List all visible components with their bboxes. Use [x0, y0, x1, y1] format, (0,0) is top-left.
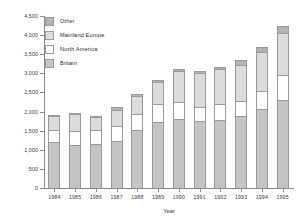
- bar-segment-britain: [214, 120, 226, 188]
- x-axis-tick: [262, 188, 263, 192]
- x-axis-tick: [137, 188, 138, 192]
- bar-segment-other: [277, 26, 289, 34]
- bar-segment-mainland: [90, 117, 102, 130]
- bar-segment-britain: [69, 145, 81, 188]
- bar-segment-north-america: [111, 126, 123, 141]
- bar-segment-mainland: [48, 116, 60, 130]
- legend-item-britain[interactable]: Britain: [45, 56, 105, 70]
- legend-label: Britain: [60, 60, 77, 66]
- bar-segment-north-america: [69, 131, 81, 145]
- bar-segment-mainland: [111, 110, 123, 126]
- bar-segment-britain: [90, 144, 102, 188]
- bar-segment-britain: [256, 109, 268, 188]
- legend-item-north-america[interactable]: North America: [45, 42, 105, 56]
- bar-stack-1988: [131, 94, 143, 188]
- bar-segment-mainland: [194, 73, 206, 107]
- bar-segment-north-america: [194, 107, 206, 121]
- bar-segment-britain: [111, 141, 123, 188]
- x-axis-tick: [75, 188, 76, 192]
- x-axis-tick: [96, 188, 97, 192]
- bar-segment-britain: [194, 121, 206, 188]
- bar-stack-1986: [90, 116, 102, 188]
- legend-swatch-mainland: [45, 31, 54, 40]
- x-axis-tick-label: 1995: [277, 194, 289, 200]
- y-axis-tick: [40, 16, 44, 17]
- legend-swatch-north-america: [45, 45, 54, 54]
- x-axis-tick-label: 1985: [69, 194, 81, 200]
- y-axis-tick: [40, 131, 44, 132]
- bar-segment-britain: [152, 122, 164, 188]
- bar-stack-1984: [48, 115, 60, 188]
- y-axis-tick-label: 1,000: [24, 147, 38, 153]
- bar-segment-north-america: [152, 104, 164, 122]
- x-axis-tick-label: 1988: [131, 194, 143, 200]
- bar-stack-1985: [69, 113, 81, 188]
- y-axis-tick-label: 1,500: [24, 128, 38, 134]
- bar-stack-1992: [214, 67, 226, 189]
- bar-segment-north-america: [277, 75, 289, 99]
- bar-segment-britain: [277, 100, 289, 188]
- x-axis-tick-label: 1990: [173, 194, 185, 200]
- x-axis-tick: [179, 188, 180, 192]
- y-axis-tick-label: 2,000: [24, 109, 38, 115]
- bar-segment-mainland: [277, 33, 289, 75]
- x-axis-tick-label: 1989: [152, 194, 164, 200]
- x-axis-tick: [117, 188, 118, 192]
- bar-segment-north-america: [173, 102, 185, 119]
- x-axis-tick-label: 1994: [256, 194, 268, 200]
- bar-segment-britain: [48, 142, 60, 188]
- y-axis-tick-label: 2,500: [24, 89, 38, 95]
- y-axis-tick: [40, 54, 44, 55]
- x-axis-tick: [241, 188, 242, 192]
- y-axis-tick: [40, 92, 44, 93]
- bar-stack-1995: [277, 26, 289, 188]
- bar-stack-1990: [173, 69, 185, 188]
- bar-segment-mainland: [152, 82, 164, 104]
- x-axis-tick-label: 1991: [194, 194, 206, 200]
- y-axis-tick: [40, 150, 44, 151]
- y-axis-tick: [40, 112, 44, 113]
- x-axis-title: Year: [44, 208, 294, 214]
- x-axis-tick-label: 1993: [235, 194, 247, 200]
- bar-segment-north-america: [90, 130, 102, 144]
- bar-segment-mainland: [256, 52, 268, 91]
- legend-item-mainland[interactable]: Mainland Europe: [45, 28, 105, 42]
- bar-stack-1987: [111, 107, 123, 188]
- bar-segment-britain: [235, 116, 247, 188]
- x-axis-tick-label: 1984: [48, 194, 60, 200]
- x-axis-tick-label: 1986: [90, 194, 102, 200]
- x-axis-tick: [283, 188, 284, 192]
- y-axis-tick-label: 0: [35, 185, 38, 191]
- bar-segment-north-america: [131, 114, 143, 130]
- y-axis-tick-label: 4,000: [24, 32, 38, 38]
- legend-label: North America: [60, 46, 97, 52]
- y-axis-tick: [40, 188, 44, 189]
- bar-segment-north-america: [214, 104, 226, 120]
- stacked-bar-chart: 05001,0001,5002,0002,5003,0003,5004,0004…: [0, 0, 305, 222]
- bar-segment-britain: [131, 130, 143, 188]
- y-axis-tick-label: 4,500: [24, 13, 38, 19]
- y-axis-tick: [40, 169, 44, 170]
- bar-stack-1989: [152, 80, 164, 188]
- chart-legend: OtherMainland EuropeNorth AmericaBritain: [45, 14, 105, 70]
- legend-label: Mainland Europe: [60, 32, 105, 38]
- x-axis-tick: [220, 188, 221, 192]
- legend-item-other[interactable]: Other: [45, 14, 105, 28]
- y-axis-tick-label: 3,500: [24, 51, 38, 57]
- bar-segment-north-america: [48, 130, 60, 142]
- legend-label: Other: [60, 18, 75, 24]
- bar-segment-mainland: [131, 96, 143, 114]
- bar-stack-1991: [194, 71, 206, 188]
- y-axis-tick: [40, 35, 44, 36]
- bar-stack-1993: [235, 60, 247, 188]
- x-axis-tick: [158, 188, 159, 192]
- bar-segment-north-america: [256, 91, 268, 110]
- bar-segment-mainland: [69, 114, 81, 131]
- bar-segment-britain: [173, 119, 185, 188]
- y-axis-tick-label: 500: [29, 166, 38, 172]
- y-axis-tick-label: 3,000: [24, 70, 38, 76]
- bar-segment-mainland: [173, 71, 185, 102]
- x-axis-line: [44, 188, 294, 189]
- legend-swatch-britain: [45, 59, 54, 68]
- bar-stack-1994: [256, 47, 268, 188]
